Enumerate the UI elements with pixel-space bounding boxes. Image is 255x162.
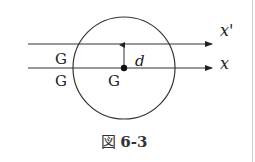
figure-caption: 図 6-3 xyxy=(0,130,248,151)
distance-label: d xyxy=(135,52,145,70)
g-label-upper-left: G xyxy=(55,50,67,68)
caption-prefix: 図 xyxy=(101,133,116,151)
caption-number: 6-3 xyxy=(120,133,147,151)
axis-x-prime-label: x' xyxy=(220,21,233,40)
g-label-center: G xyxy=(108,72,120,90)
axis-x-label: x xyxy=(220,54,229,73)
center-of-mass-dot xyxy=(121,65,127,71)
page-edge-divider xyxy=(252,0,253,162)
g-label-lower-left: G xyxy=(55,72,67,90)
